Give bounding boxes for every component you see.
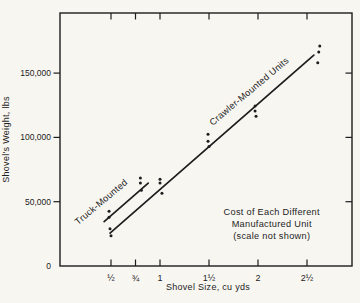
figure-scan-page: ½¾11½22½050,000100,000150,000Truck-Mount…: [0, 0, 360, 303]
data-point: [254, 110, 257, 113]
x-axis-title: Shovel Size, cu yds: [166, 282, 250, 292]
data-point: [316, 61, 319, 64]
data-point: [207, 133, 210, 136]
shovel-weight-vs-size-chart: ½¾11½22½050,000100,000150,000Truck-Mount…: [0, 0, 360, 303]
data-point: [317, 50, 320, 53]
y-axis-title: Shovel's Weight, lbs: [1, 96, 11, 183]
data-point: [207, 140, 210, 143]
annotation-line: Manufactured Unit: [232, 219, 312, 229]
data-point: [109, 227, 112, 230]
x-axis-tick-label: 1: [157, 273, 162, 283]
series-label-crawler-mounted-units: Crawler-Mounted Units: [208, 55, 291, 127]
data-point: [108, 216, 111, 219]
y-axis-tick-label: 100,000: [20, 132, 51, 142]
x-axis-tick-label: ¾: [132, 273, 140, 283]
data-point: [208, 145, 211, 148]
data-point: [255, 115, 258, 118]
data-point: [140, 189, 143, 192]
data-point: [160, 192, 163, 195]
x-axis-tick-label: ½: [107, 273, 115, 283]
data-point: [318, 45, 321, 48]
annotation-line: Cost of Each Different: [224, 207, 320, 217]
y-axis-tick-label: 50,000: [25, 197, 51, 207]
data-point: [254, 104, 257, 107]
data-point: [159, 182, 162, 185]
data-point: [159, 178, 162, 181]
y-axis-tick-label: 150,000: [20, 68, 51, 78]
data-point: [139, 182, 142, 185]
data-point: [108, 210, 111, 213]
data-point: [139, 176, 142, 179]
annotation-line: (scale not shown): [233, 231, 310, 241]
x-axis-tick-label: 2: [255, 273, 260, 283]
y-axis-tick-label: 0: [46, 261, 51, 271]
x-axis-tick-label: 2½: [301, 273, 314, 283]
data-point: [110, 234, 113, 237]
series-label-truck-mounted: Truck-Mounted: [73, 177, 129, 227]
